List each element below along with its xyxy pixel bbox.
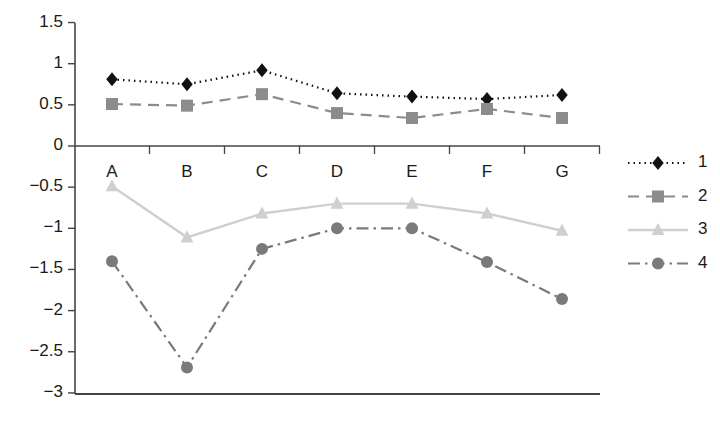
x-axis-category-label-a: A <box>82 162 142 182</box>
data-point-4-B <box>181 361 193 373</box>
y-axis-tick-label: 0 <box>0 135 63 155</box>
legend-marker-2 <box>652 191 664 203</box>
legend-marker-4 <box>652 258 664 270</box>
chart-container: 1.510.50−0.5−1−1.5−2−2.5−3 ABCDEFG 1234 <box>0 0 720 425</box>
y-axis-tick-label: −2 <box>0 300 63 320</box>
series-1 <box>106 63 567 106</box>
x-axis-category-label-c: C <box>232 162 292 182</box>
y-axis-tick-label: −2.5 <box>0 341 63 361</box>
y-axis-tick-label: 1 <box>0 53 63 73</box>
chart-plot-area <box>0 0 720 425</box>
y-axis-ticks <box>68 23 75 393</box>
x-axis-category-label-e: E <box>382 162 442 182</box>
data-point-4-A <box>106 255 118 267</box>
y-axis-tick-label: −1.5 <box>0 258 63 278</box>
y-axis-tick-label: −1 <box>0 217 63 237</box>
legend-marker-1 <box>652 156 663 170</box>
data-point-4-G <box>556 293 568 305</box>
data-point-4-F <box>481 256 493 268</box>
series-line-4 <box>112 228 562 367</box>
data-series-layer <box>106 63 569 373</box>
data-point-1-C <box>256 63 267 77</box>
legend-item-label-1[interactable]: 1 <box>698 152 707 172</box>
data-point-1-E <box>406 90 417 104</box>
x-axis-category-label-g: G <box>532 162 592 182</box>
data-point-2-A <box>106 98 118 110</box>
data-point-4-C <box>256 243 268 255</box>
data-point-2-C <box>256 88 268 100</box>
x-axis-category-label-f: F <box>457 162 517 182</box>
legend-item-label-2[interactable]: 2 <box>698 186 707 206</box>
data-point-1-B <box>181 77 192 91</box>
y-axis-tick-label: −0.5 <box>0 176 63 196</box>
legend-sample-marks <box>628 156 688 270</box>
data-point-2-B <box>181 100 193 112</box>
legend-item-label-3[interactable]: 3 <box>698 219 707 239</box>
y-axis-tick-label: 1.5 <box>0 12 63 32</box>
data-point-2-F <box>481 103 493 115</box>
x-axis-category-label-b: B <box>157 162 217 182</box>
data-point-4-E <box>406 222 418 234</box>
data-point-2-E <box>406 112 418 124</box>
y-axis-tick-label: −3 <box>0 382 63 402</box>
data-point-1-A <box>106 72 117 86</box>
y-axis-tick-label: 0.5 <box>0 94 63 114</box>
data-point-2-G <box>556 112 568 124</box>
data-point-2-D <box>331 107 343 119</box>
x-axis-category-label-d: D <box>307 162 367 182</box>
series-4 <box>106 222 568 373</box>
data-point-1-G <box>556 88 567 102</box>
x-axis-ticks <box>150 146 600 154</box>
data-point-1-D <box>331 86 342 100</box>
data-point-4-D <box>331 222 343 234</box>
legend-item-label-4[interactable]: 4 <box>698 253 707 273</box>
